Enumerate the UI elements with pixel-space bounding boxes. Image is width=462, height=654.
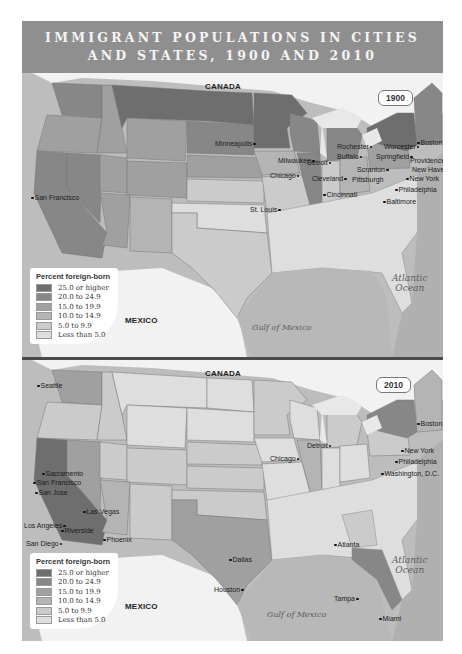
legend-row: 5.0 to 9.9 — [36, 606, 112, 616]
city-st-louis: St. Louis — [250, 206, 282, 213]
city-providence: Providence — [410, 157, 443, 164]
label-mexico: MEXICO — [125, 316, 158, 325]
city-san-francisco: San Francisco — [32, 479, 81, 486]
legend-row: 25.0 or higher — [36, 283, 112, 293]
label-mexico: MEXICO — [125, 602, 158, 611]
city-cincinnati: Cincinnati — [322, 191, 357, 198]
label-atlantic-line1: Atlantic — [392, 555, 428, 565]
city-springfield: Springfield — [376, 153, 414, 160]
city-scranton: Scranton — [357, 166, 390, 173]
city-seattle: Seattle — [36, 382, 62, 389]
legend-swatch — [36, 597, 52, 605]
legend-2010: Percent foreign-born 25.0 or higher 20.0… — [30, 553, 118, 629]
label-atlantic-line1: Atlantic — [392, 273, 428, 283]
legend-swatch — [36, 303, 52, 311]
label-atlantic: Atlantic Ocean — [392, 555, 428, 576]
label-atlantic: Atlantic Ocean — [392, 273, 428, 294]
city-philadelphia: Philadelphia — [394, 458, 437, 465]
legend-row: Less than 5.0 — [36, 616, 112, 626]
city-worcester: Worcester — [384, 143, 420, 150]
legend-swatch — [36, 578, 52, 586]
label-gulf-of-mexico: Gulf of Mexico — [267, 610, 326, 619]
city-chicago: Chicago — [270, 172, 300, 179]
legend-swatch — [36, 312, 52, 320]
city-houston: Houston — [214, 586, 245, 593]
legend-row: 15.0 to 19.9 — [36, 587, 112, 597]
city-boston: Boston — [416, 139, 442, 146]
legend-row: 20.0 to 24.9 — [36, 578, 112, 588]
city-detroit: Detroit — [307, 159, 332, 166]
city-san-francisco: San Francisco — [30, 194, 79, 201]
year-badge-1900: 1900 — [378, 90, 413, 106]
city-las-vegas: Las Vegas — [82, 508, 119, 515]
label-canada: CANADA — [205, 82, 241, 91]
city-san-diego: San Diego — [26, 540, 63, 547]
legend-title: Percent foreign-born — [36, 557, 112, 566]
legend-swatch — [36, 331, 52, 339]
city-chicago: Chicago — [270, 455, 300, 462]
city-rochester: Rochester — [337, 143, 373, 150]
city-boston: Boston — [416, 420, 442, 427]
legend-row: 20.0 to 24.9 — [36, 293, 112, 303]
city-minneapolis: Minneapolis — [215, 140, 257, 147]
year-badge-2010: 2010 — [376, 377, 411, 393]
city-new-haven: New Haven — [412, 166, 443, 173]
label-gulf-of-mexico: Gulf of Mexico — [252, 323, 311, 332]
legend-row: 15.0 to 19.9 — [36, 302, 112, 312]
legend-swatch — [36, 284, 52, 292]
legend-row: 10.0 to 14.9 — [36, 597, 112, 607]
city-riverside: Riverside — [60, 527, 94, 534]
city-baltimore: Baltimore — [382, 198, 416, 205]
legend-swatch — [36, 616, 52, 624]
title-line-2: AND STATES, 1900 AND 2010 — [22, 48, 443, 63]
city-cleveland: Cleveland — [312, 175, 348, 182]
city-pittsburgh: Pittsburgh — [352, 176, 384, 183]
label-atlantic-line2: Ocean — [392, 283, 428, 293]
city-buffalo: Buffalo — [337, 153, 363, 160]
city-sacramento: Sacramento — [41, 470, 83, 477]
legend-swatch — [36, 607, 52, 615]
city-new-york: New York — [405, 175, 439, 182]
legend-row: Less than 5.0 — [36, 331, 112, 341]
city-new-york: New York — [400, 447, 434, 454]
map-1900: CANADA MEXICO Gulf of Mexico Atlantic Oc… — [22, 73, 443, 358]
city-atlanta: Atlanta — [333, 541, 359, 548]
legend-swatch — [36, 569, 52, 577]
legend-swatch — [36, 322, 52, 330]
city-miami: Miami — [378, 615, 401, 622]
city-dallas: Dallas — [228, 556, 252, 563]
label-canada: CANADA — [205, 369, 241, 378]
legend-1900: Percent foreign-born 25.0 or higher 20.0… — [30, 268, 118, 344]
map-title-banner: IMMIGRANT POPULATIONS IN CITIES AND STAT… — [22, 21, 443, 73]
legend-title: Percent foreign-born — [36, 272, 112, 281]
title-line-1: IMMIGRANT POPULATIONS IN CITIES — [22, 30, 443, 45]
city-detroit: Detroit — [307, 442, 332, 449]
city-washington-dc: Washington, D.C. — [380, 470, 439, 477]
legend-row: 25.0 or higher — [36, 568, 112, 578]
city-phoenix: Phoenix — [102, 536, 132, 543]
legend-row: 5.0 to 9.9 — [36, 321, 112, 331]
city-tampa: Tampa — [334, 595, 360, 602]
legend-row: 10.0 to 14.9 — [36, 312, 112, 322]
city-san-jose: San Jose — [34, 489, 68, 496]
city-philadelphia: Philadelphia — [394, 186, 437, 193]
legend-swatch — [36, 588, 52, 596]
map-2010: CANADA MEXICO Gulf of Mexico Atlantic Oc… — [22, 360, 443, 641]
label-atlantic-line2: Ocean — [392, 565, 428, 575]
legend-swatch — [36, 293, 52, 301]
